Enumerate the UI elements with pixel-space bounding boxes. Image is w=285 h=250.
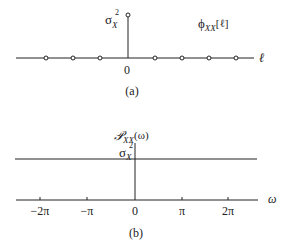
caption-b: (b) <box>129 226 143 240</box>
svg-text:−2π: −2π <box>31 204 50 218</box>
figure: σX 2 ϕXX[ℓ] ℓ 0 (a) 𝒫XX(ω) σX 2 ω −2π −π… <box>0 0 285 250</box>
phi-label: ϕXX[ℓ] <box>198 16 228 33</box>
svg-text:π: π <box>179 204 185 218</box>
sigma-label-a: σ <box>105 12 112 27</box>
panel-a-autocorrelation: σX 2 ϕXX[ℓ] ℓ 0 (a) <box>16 8 265 98</box>
axis-label-ell: ℓ <box>259 50 265 65</box>
axis-label-omega: ω <box>268 192 276 206</box>
origin-label-a: 0 <box>124 63 130 77</box>
svg-text:2π: 2π <box>222 204 234 218</box>
svg-text:0: 0 <box>132 204 138 218</box>
sigma-sup-b: 2 <box>129 141 133 150</box>
sigma-sup-a: 2 <box>115 8 119 17</box>
stem-marker-zero <box>126 13 130 17</box>
sigma-label-b: σ <box>119 145 126 160</box>
svg-text:−π: −π <box>81 204 94 218</box>
caption-a: (a) <box>125 84 138 98</box>
tick-labels: −2π −π 0 π 2π <box>31 204 234 218</box>
panel-b-power-spectrum: 𝒫XX(ω) σX 2 ω −2π −π 0 π 2π (b) <box>15 128 276 240</box>
